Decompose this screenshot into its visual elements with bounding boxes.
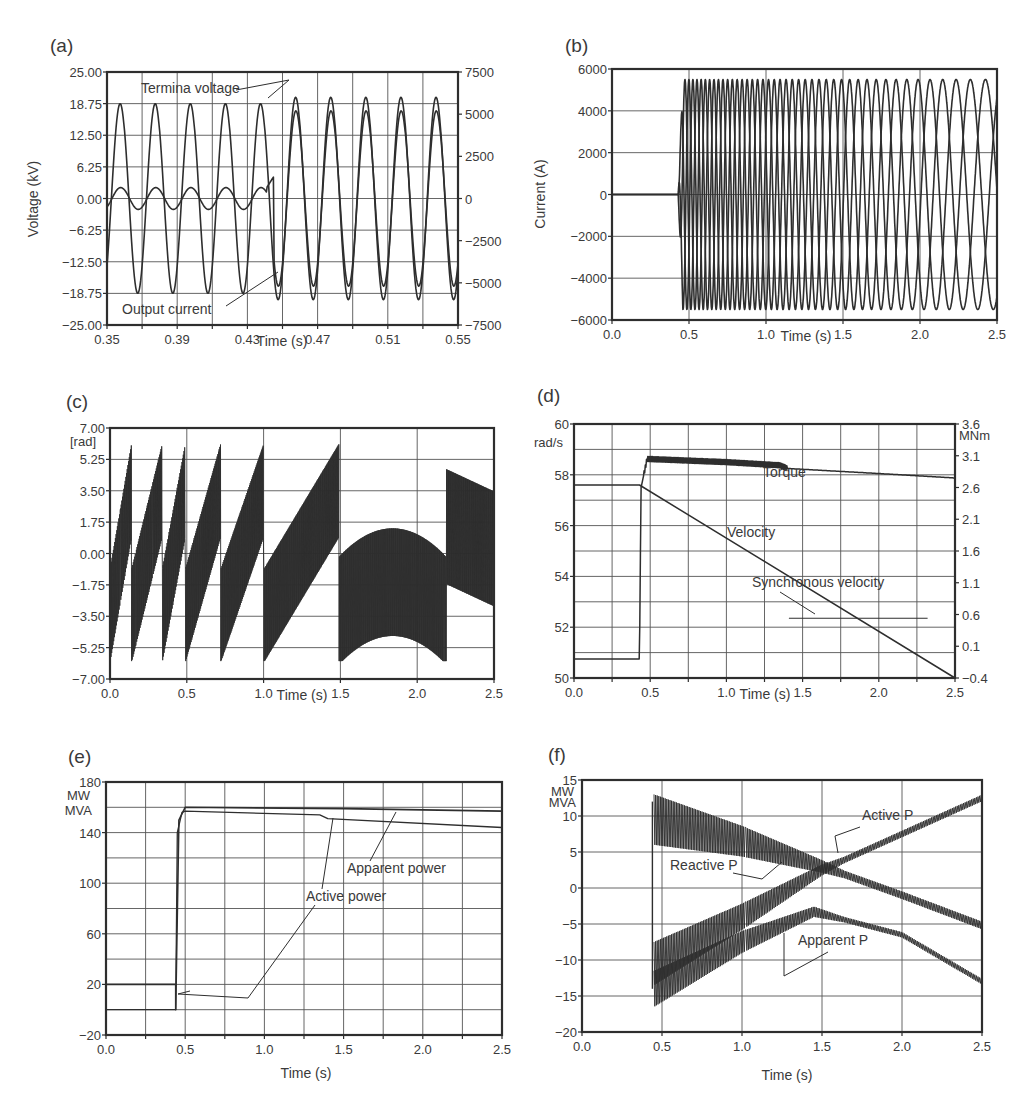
- y2-tick-label: −0.4: [962, 671, 988, 686]
- y-tick-label: −10: [555, 953, 577, 968]
- y-tick-label: −2000: [570, 229, 607, 244]
- y-tick-label: 20: [87, 977, 101, 992]
- y-tick-label: −20: [79, 1028, 101, 1043]
- x-axis-title: Time (s): [740, 686, 791, 702]
- x-axis-title: Time (s): [277, 687, 328, 703]
- x-axis-title: Time (s): [281, 1065, 332, 1081]
- y-tick-label: 58: [555, 468, 569, 483]
- y-tick-label: 2000: [578, 146, 607, 161]
- y-tick-label: −18.75: [62, 286, 102, 301]
- y-tick-label: 60: [555, 417, 569, 432]
- y-tick-label: 10: [563, 809, 577, 824]
- x-tick-label: 0.47: [305, 332, 330, 347]
- y-tick-label: 6.25: [77, 160, 102, 175]
- y-axis-unit-mw: MW: [67, 788, 91, 803]
- x-tick-label: 2.0: [408, 686, 426, 701]
- y-tick-label: −5.25: [72, 641, 105, 656]
- x-tick-label: 2.5: [946, 685, 964, 700]
- panel-a-voltage-current: 0.350.390.430.470.510.5525.0018.7512.506…: [25, 65, 502, 349]
- x-axis-title: Time (s): [781, 328, 832, 344]
- y2-tick-label: 2500: [465, 149, 494, 164]
- y-axis-title: Voltage (kV): [25, 161, 41, 237]
- x-tick-label: 0.0: [101, 686, 119, 701]
- y-tick-label: 5.25: [80, 452, 105, 467]
- y-tick-label: 4000: [578, 104, 607, 119]
- x-tick-label: 2.0: [893, 1039, 911, 1054]
- x-tick-label: 0.5: [176, 1042, 194, 1057]
- x-tick-label: 0.5: [653, 1039, 671, 1054]
- y-tick-label: 54: [555, 569, 569, 584]
- y2-tick-label: −7500: [465, 318, 502, 333]
- y2-axis-title: MNm: [959, 428, 990, 443]
- x-tick-label: 1.5: [335, 1042, 353, 1057]
- y2-tick-label: 0.6: [962, 608, 980, 623]
- x-tick-label: 0.5: [178, 686, 196, 701]
- x-tick-label: 1.0: [717, 685, 735, 700]
- x-tick-label: 1.0: [733, 1039, 751, 1054]
- panel-label-d: (d): [537, 385, 560, 406]
- annotation-active-power: Active power: [306, 888, 386, 904]
- annotation-active-p: Active P: [862, 807, 913, 823]
- y2-tick-label: −2500: [465, 234, 502, 249]
- y-tick-label: 0.00: [80, 547, 105, 562]
- y-tick-label: 56: [555, 519, 569, 534]
- y-axis-unit-mva: MVA: [549, 795, 577, 810]
- annotation-apparent-p: Apparent P: [798, 932, 868, 948]
- y-axis-title: rad/s: [534, 435, 563, 450]
- x-tick-label: 0.35: [94, 332, 119, 347]
- panel-label-c: (c): [66, 391, 88, 412]
- annotation-torque: Torque: [763, 464, 806, 480]
- y-tick-label: 52: [555, 620, 569, 635]
- y-tick-label: 6000: [578, 62, 607, 77]
- y-tick-label: 0: [600, 188, 607, 203]
- x-tick-label: 1.0: [255, 1042, 273, 1057]
- annotation-reactive-p: Reactive P: [670, 857, 738, 873]
- y-tick-label: 5: [570, 845, 577, 860]
- y-tick-label: 60: [87, 927, 101, 942]
- y-tick-label: −15: [555, 989, 577, 1004]
- y-tick-label: −5: [562, 917, 577, 932]
- y2-tick-label: 2.6: [962, 481, 980, 496]
- y-tick-label: −20: [555, 1025, 577, 1040]
- y-tick-label: −1.75: [72, 578, 105, 593]
- y-tick-label: 25.00: [69, 65, 102, 80]
- panel-label-e: (e): [68, 746, 91, 767]
- panel-c-angle: 0.00.51.01.52.02.57.005.253.501.750.00−1…: [70, 421, 503, 703]
- x-tick-label: 1.5: [331, 686, 349, 701]
- y2-tick-label: 0.1: [962, 639, 980, 654]
- x-tick-label: 2.0: [414, 1042, 432, 1057]
- y-axis-unit-mva: MVA: [65, 803, 93, 818]
- x-axis-title: Time (s): [762, 1067, 813, 1083]
- y-tick-label: −6000: [570, 313, 607, 328]
- y-tick-label: −6.25: [69, 223, 102, 238]
- y2-tick-label: 3.1: [962, 449, 980, 464]
- annotation-synchronous-velocity: Synchronous velocity: [752, 574, 884, 590]
- x-tick-label: 0.0: [97, 1042, 115, 1057]
- annotation-terminal-voltage: Termina voltage: [141, 80, 240, 96]
- x-tick-label: 2.0: [911, 327, 929, 342]
- y2-tick-label: 2.1: [962, 512, 980, 527]
- panel-d-velocity-torque: 0.00.51.01.52.02.56058565452503.63.12.62…: [534, 417, 990, 702]
- x-tick-label: 0.0: [565, 685, 583, 700]
- x-tick-label: 2.5: [988, 327, 1006, 342]
- y-tick-label: 100: [79, 876, 101, 891]
- x-tick-label: 0.39: [165, 332, 190, 347]
- x-tick-label: 1.5: [794, 685, 812, 700]
- x-tick-label: 0.0: [573, 1039, 591, 1054]
- y2-tick-label: 0: [465, 192, 472, 207]
- y-tick-label: −25.00: [62, 318, 102, 333]
- x-axis-title: Time (s): [257, 333, 308, 349]
- x-tick-label: 0.0: [603, 327, 621, 342]
- y-axis-title: [rad]: [70, 434, 96, 449]
- panel-label-f: (f): [548, 744, 566, 765]
- panel-e-power: 0.00.51.01.52.02.51801401006020−20Appare…: [65, 775, 511, 1081]
- annotation-velocity: Velocity: [727, 524, 775, 540]
- panel-f-power-oscillation: 0.00.51.01.52.02.5151050−5−10−15−20Activ…: [549, 773, 991, 1083]
- x-tick-label: 0.5: [641, 685, 659, 700]
- x-tick-label: 2.5: [973, 1039, 991, 1054]
- y2-tick-label: 5000: [465, 107, 494, 122]
- y2-tick-label: −5000: [465, 276, 502, 291]
- y2-tick-label: 1.6: [962, 544, 980, 559]
- y-tick-label: −3.50: [72, 609, 105, 624]
- y-tick-label: 12.50: [69, 128, 102, 143]
